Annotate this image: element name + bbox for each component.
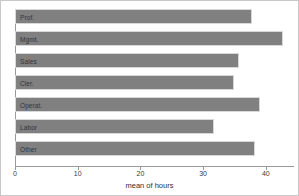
x-tick-label: 10 (74, 170, 82, 178)
bar-row: Operat. (15, 97, 294, 112)
bar-chart-figure: Prof.Mgmt.SalesCler.Operat.LaborOther 01… (0, 0, 299, 196)
x-tick-label: 40 (262, 170, 270, 178)
bar-row: Mgmt. (15, 31, 294, 46)
bar-category-label: Other (20, 145, 37, 152)
bar-row: Labor (15, 119, 294, 134)
bar: Labor (15, 119, 214, 134)
bar-row: Other (15, 141, 294, 156)
x-axis-line (15, 166, 294, 167)
bar-category-label: Cler. (20, 79, 34, 86)
bar: Mgmt. (15, 31, 283, 46)
bar-category-label: Operat. (20, 101, 42, 108)
bar: Other (15, 141, 255, 156)
x-axis-title: mean of hours (1, 181, 298, 190)
bar-row: Cler. (15, 75, 294, 90)
bar-category-label: Sales (20, 57, 37, 64)
bar-category-label: Prof. (20, 13, 34, 20)
bar: Sales (15, 53, 239, 68)
bar-row: Prof. (15, 9, 294, 24)
bar-category-label: Labor (20, 123, 37, 130)
x-tick-label: 20 (136, 170, 144, 178)
bar-row: Sales (15, 53, 294, 68)
bar-category-label: Mgmt. (20, 35, 39, 42)
x-tick-label: 30 (199, 170, 207, 178)
bar: Cler. (15, 75, 234, 90)
x-tick-label: 0 (13, 170, 17, 178)
bar: Prof. (15, 9, 252, 24)
bar: Operat. (15, 97, 260, 112)
